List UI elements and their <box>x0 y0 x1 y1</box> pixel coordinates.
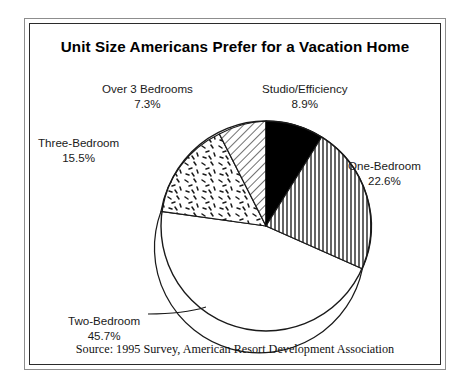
pie-label-two-bedroom: Two-Bedroom 45.7% <box>68 314 140 344</box>
figure-inner-frame: Unit Size Americans Prefer for a Vacatio… <box>29 23 441 365</box>
pie-label-two-bedroom-name: Two-Bedroom <box>68 314 140 327</box>
pie-label-studio-efficiency-name: Studio/Efficiency <box>262 82 348 95</box>
pie-label-one-bedroom: One-Bedroom 22.6% <box>348 159 421 189</box>
pie-label-over-3-bedrooms-value: 7.3% <box>102 97 193 112</box>
pie-label-three-bedroom-name: Three-Bedroom <box>38 136 119 149</box>
pie-label-one-bedroom-name: One-Bedroom <box>348 159 421 172</box>
pie-label-three-bedroom: Three-Bedroom 15.5% <box>38 136 119 166</box>
source-note: Source: 1995 Survey, American Resort Dev… <box>30 342 440 357</box>
pie-chart: Studio/Efficiency 8.9% Over 3 Bedrooms 7… <box>30 24 444 368</box>
pie-label-over-3-bedrooms-name: Over 3 Bedrooms <box>102 82 193 95</box>
pie-label-studio-efficiency-value: 8.9% <box>262 97 348 112</box>
pie-label-over-3-bedrooms: Over 3 Bedrooms 7.3% <box>102 82 193 112</box>
pie-label-one-bedroom-value: 22.6% <box>348 174 421 189</box>
pie-label-three-bedroom-value: 15.5% <box>38 151 119 166</box>
figure-outer-frame: Unit Size Americans Prefer for a Vacatio… <box>24 18 446 370</box>
pie-label-studio-efficiency: Studio/Efficiency 8.9% <box>262 82 348 112</box>
